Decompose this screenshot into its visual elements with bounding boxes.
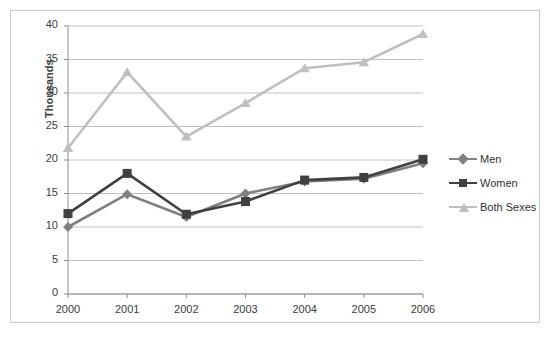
legend-label: Men bbox=[480, 153, 501, 165]
y-tick-label: 0 bbox=[32, 286, 58, 298]
x-tick-label: 2006 bbox=[400, 303, 446, 315]
data-point-marker bbox=[63, 222, 73, 232]
y-tick-label: 15 bbox=[32, 186, 58, 198]
y-tick-label: 30 bbox=[32, 85, 58, 97]
data-point-marker bbox=[241, 189, 251, 199]
legend-swatch-diamond-icon bbox=[449, 152, 477, 166]
x-tick-label: 2003 bbox=[223, 303, 269, 315]
y-tick-label: 25 bbox=[32, 119, 58, 131]
legend-label: Women bbox=[480, 177, 518, 189]
legend-item-both-sexes[interactable]: Both Sexes bbox=[449, 195, 549, 219]
data-point-marker bbox=[182, 210, 191, 219]
series-women bbox=[64, 155, 428, 219]
chart-legend: MenWomenBoth Sexes bbox=[449, 147, 549, 219]
data-point-marker bbox=[419, 155, 428, 164]
data-point-marker bbox=[241, 197, 250, 206]
series-men bbox=[63, 158, 428, 232]
data-point-marker bbox=[123, 169, 132, 178]
x-tick-marks bbox=[68, 294, 423, 298]
x-tick-label: 2005 bbox=[341, 303, 387, 315]
data-point-marker bbox=[418, 29, 428, 38]
legend-label: Both Sexes bbox=[480, 201, 536, 213]
chart-frame: Thousands 0510152025303540 2000200120022… bbox=[10, 10, 540, 323]
series-line bbox=[68, 34, 423, 148]
data-point-marker bbox=[122, 189, 132, 199]
legend-swatch-triangle-icon bbox=[449, 200, 477, 214]
data-point-marker bbox=[64, 209, 73, 218]
y-tick-label: 35 bbox=[32, 52, 58, 64]
y-tick-marks bbox=[64, 26, 68, 294]
x-tick-label: 2001 bbox=[104, 303, 150, 315]
legend-swatch-square-icon bbox=[449, 176, 477, 190]
chart-screenshot: Thousands 0510152025303540 2000200120022… bbox=[0, 0, 552, 340]
x-tick-label: 2004 bbox=[282, 303, 328, 315]
data-point-marker bbox=[359, 173, 368, 182]
y-tick-label: 40 bbox=[32, 18, 58, 30]
y-tick-label: 5 bbox=[32, 253, 58, 265]
x-tick-label: 2000 bbox=[45, 303, 91, 315]
gridlines bbox=[68, 26, 423, 294]
x-tick-label: 2002 bbox=[163, 303, 209, 315]
legend-item-men[interactable]: Men bbox=[449, 147, 549, 171]
data-point-marker bbox=[300, 176, 309, 185]
series-both-sexes bbox=[63, 29, 428, 152]
y-tick-label: 20 bbox=[32, 152, 58, 164]
data-point-marker bbox=[122, 67, 132, 76]
legend-item-women[interactable]: Women bbox=[449, 171, 549, 195]
y-tick-label: 10 bbox=[32, 219, 58, 231]
